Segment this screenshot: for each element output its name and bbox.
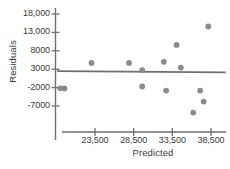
x-axis-title: Predicted: [95, 147, 211, 158]
x-tick-label-0: 23,500: [73, 135, 117, 145]
x-tick-label-3: 38,500: [189, 135, 230, 145]
x-tick-label-group: 23,50028,50033,50038,500: [0, 0, 230, 169]
x-tick-label-2: 33,500: [150, 135, 194, 145]
y-axis-title: Residuals: [7, 24, 18, 100]
x-tick-label-1: 28,500: [112, 135, 156, 145]
residual-plot: 18,00013,00080003000-2000-7000 23,50028,…: [0, 0, 230, 169]
